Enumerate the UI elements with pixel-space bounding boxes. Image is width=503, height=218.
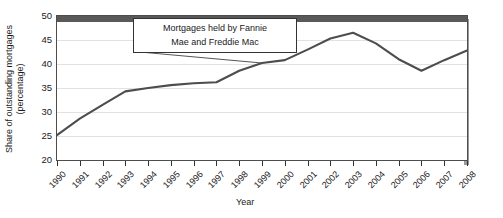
x-tickmark-1993	[125, 161, 126, 166]
x-tick-2008: 2008	[450, 169, 478, 197]
x-tick-1994: 1994	[131, 169, 159, 197]
x-tickmark-1997	[216, 161, 217, 166]
y-tick-30: 30	[30, 106, 52, 117]
x-tick-2007: 2007	[427, 169, 455, 197]
x-tick-2005: 2005	[381, 169, 409, 197]
y-axis-title: Share of outstanding mortgages (percenta…	[4, 14, 26, 164]
annotation-leader-line	[140, 52, 262, 63]
x-tick-2003: 2003	[336, 169, 364, 197]
y-tick-45: 45	[30, 34, 52, 45]
x-tickmark-1990	[57, 161, 58, 166]
x-tickmark-2000	[285, 161, 286, 166]
x-tick-1998: 1998	[222, 169, 250, 197]
x-tick-1996: 1996	[176, 169, 204, 197]
x-tickmark-2004	[376, 161, 377, 166]
x-tick-1995: 1995	[154, 169, 182, 197]
x-tick-1999: 1999	[245, 169, 273, 197]
y-tick-50: 50	[30, 10, 52, 21]
x-tick-2006: 2006	[404, 169, 432, 197]
x-tickmark-1995	[171, 161, 172, 166]
x-tick-2004: 2004	[359, 169, 387, 197]
x-tick-1997: 1997	[199, 169, 227, 197]
x-tick-1991: 1991	[63, 169, 91, 197]
x-tick-1993: 1993	[108, 169, 136, 197]
x-tickmark-1992	[103, 161, 104, 166]
chart-container: Share of outstanding mortgages (percenta…	[0, 0, 503, 218]
x-tickmark-1999	[262, 161, 263, 166]
y-tick-20: 20	[30, 154, 52, 165]
annotation-line-2: Mae and Freddie Mac	[134, 35, 296, 49]
x-axis-title: Year	[236, 197, 254, 207]
x-tickmark-1991	[80, 161, 81, 166]
x-tickmark-1994	[148, 161, 149, 166]
x-tickmark-2002	[330, 161, 331, 166]
x-tickmark-1996	[194, 161, 195, 166]
x-tick-2001: 2001	[290, 169, 318, 197]
y-axis-title-container: Share of outstanding mortgages (percenta…	[0, 0, 30, 175]
x-tickmark-2006	[421, 161, 422, 166]
y-tick-25: 25	[30, 130, 52, 141]
y-axis-tick-labels: 20253035404550	[28, 0, 52, 175]
annotation-box: Mortgages held by Fannie Mae and Freddie…	[133, 18, 297, 53]
x-tick-2000: 2000	[268, 169, 296, 197]
x-tickmark-2008	[467, 161, 468, 166]
x-tick-1992: 1992	[85, 169, 113, 197]
y-tick-40: 40	[30, 58, 52, 69]
x-tickmark-2001	[308, 161, 309, 166]
x-tick-2002: 2002	[313, 169, 341, 197]
x-tickmark-2003	[353, 161, 354, 166]
y-tick-35: 35	[30, 82, 52, 93]
x-tickmark-2007	[444, 161, 445, 166]
annotation-line-1: Mortgages held by Fannie	[134, 21, 296, 35]
x-tickmark-2005	[399, 161, 400, 166]
x-tickmark-1998	[239, 161, 240, 166]
